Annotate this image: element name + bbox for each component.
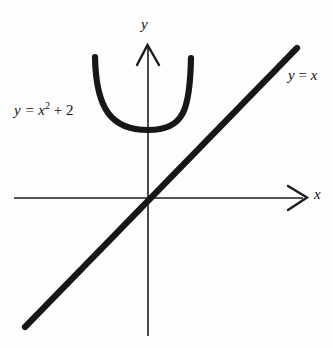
figure-canvas: y = x2 + 2 y = x y x [0, 0, 333, 348]
line-curve-y-equals-x [25, 48, 297, 327]
line-label-lhs: y [288, 67, 295, 83]
line-equation-label: y = x [288, 68, 317, 83]
parabola-label-suffix: + 2 [50, 102, 73, 118]
line-label-equals: = [295, 67, 311, 83]
graph-svg [0, 0, 333, 348]
x-axis-label: x [314, 187, 321, 202]
line-label-rhs: x [311, 67, 318, 83]
parabola-label-prefix: y = x [14, 102, 45, 118]
parabola-equation-label: y = x2 + 2 [14, 101, 74, 118]
y-axis-label: y [141, 17, 148, 32]
parabola-curve [95, 57, 191, 130]
